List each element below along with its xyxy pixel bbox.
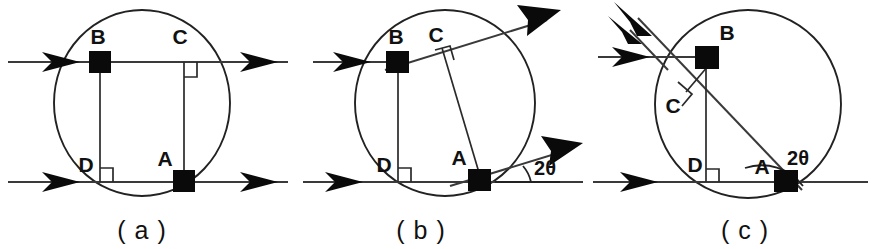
- label-c-b: C: [428, 23, 443, 46]
- label-a-a: A: [157, 147, 172, 170]
- panel-a: B C D A ( a ): [0, 0, 295, 249]
- label-two-theta-b: 2θ: [534, 157, 556, 179]
- label-b-c: B: [719, 21, 734, 44]
- point-marker-b-b: [386, 51, 409, 73]
- label-d-b: D: [376, 153, 391, 176]
- right-angle-d-c: [706, 169, 719, 182]
- figure-root: B C D A ( a ): [0, 0, 884, 249]
- label-a-c: A: [754, 155, 769, 178]
- label-b-a: B: [90, 25, 105, 48]
- label-c-a: C: [172, 25, 187, 48]
- caption-a: ( a ): [117, 216, 166, 244]
- label-d-c: D: [687, 153, 702, 176]
- point-marker-a-a: [173, 170, 195, 192]
- panel-c: B C D A 2θ ( c ): [590, 0, 884, 249]
- right-angle-c-a: [184, 62, 197, 77]
- point-marker-a-b: [468, 169, 491, 191]
- angle-arc-b: [523, 166, 531, 182]
- point-marker-b-c: [695, 46, 719, 69]
- caption-c: ( c ): [721, 216, 769, 244]
- label-two-theta-c: 2θ: [787, 147, 809, 169]
- right-angle-d-b: [398, 168, 411, 182]
- panel-b: B C D A 2θ ( b ): [295, 0, 590, 249]
- right-angle-d-a: [100, 168, 113, 182]
- label-a-b: A: [451, 146, 466, 169]
- caption-b: ( b ): [396, 216, 445, 244]
- point-marker-a-c: [774, 170, 798, 192]
- label-b-b: B: [388, 25, 403, 48]
- point-marker-b-a: [89, 51, 111, 73]
- arrow-diagonal-upper-c: [614, 2, 652, 36]
- label-d-a: D: [78, 153, 93, 176]
- reflected-ray-upper-b: [385, 20, 547, 70]
- arrow-reflected-upper-b: [517, 5, 561, 36]
- label-c-c: C: [665, 94, 680, 117]
